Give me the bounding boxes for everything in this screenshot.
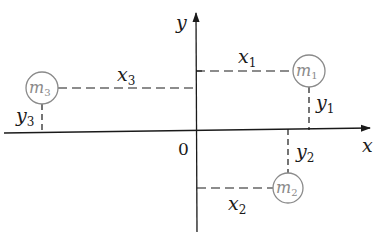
mass-m2: m2 x2 y2: [197, 129, 314, 217]
origin-label: 0: [178, 139, 189, 159]
mass-m3: m3 x3 y3: [15, 63, 196, 132]
y3-label: y3: [15, 104, 34, 129]
coordinate-diagram: y x 0 m1 x1 y1 m3 x3 y3 m2 x2 y2: [0, 0, 386, 240]
x2-label: x2: [228, 192, 246, 217]
x-axis-label: x: [362, 134, 373, 156]
x3-label: x3: [117, 63, 135, 88]
y-axis-label: y: [175, 11, 187, 33]
y-axis: [196, 13, 197, 232]
x1-label: x1: [238, 45, 256, 70]
x-axis: [4, 128, 370, 133]
y1-label: y1: [315, 91, 334, 116]
y2-label: y2: [295, 140, 314, 165]
mass-m1: m1 x1 y1: [196, 45, 334, 130]
